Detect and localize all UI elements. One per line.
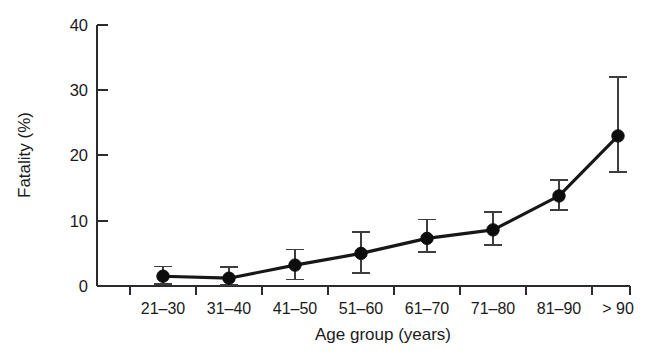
data-point-group <box>352 232 370 273</box>
data-point-group <box>154 266 172 284</box>
y-axis-title: Fatality (%) <box>15 112 34 198</box>
y-axis-ticks <box>97 25 108 286</box>
x-tick-label-0: 21–30 <box>141 300 186 317</box>
x-tick-label-7: > 90 <box>602 300 634 317</box>
y-tick-label-0: 0 <box>79 277 88 295</box>
data-point-marker <box>553 190 565 202</box>
data-point-group <box>286 249 304 279</box>
x-tick-label-5: 71–80 <box>471 300 516 317</box>
data-point-group <box>609 77 627 172</box>
data-point-marker <box>157 270 169 282</box>
y-tick-label-10: 10 <box>70 212 88 230</box>
data-point-marker <box>421 232 433 244</box>
x-axis-title: Age group (years) <box>315 325 451 344</box>
x-tick-label-6: 81–90 <box>537 300 582 317</box>
data-point-group <box>550 180 568 210</box>
y-tick-label-30: 30 <box>70 81 88 99</box>
data-point-group <box>418 219 436 252</box>
chart-canvas: 40 30 20 10 0 21–30 31–40 41–50 51–60 61… <box>0 0 662 363</box>
y-tick-label-40: 40 <box>70 16 88 34</box>
y-tick-label-20: 20 <box>70 146 88 164</box>
x-tick-label-2: 41–50 <box>273 300 318 317</box>
series-line <box>163 136 618 278</box>
x-tick-label-4: 61–70 <box>405 300 450 317</box>
data-point-marker <box>223 272 235 284</box>
data-point-marker <box>355 247 367 259</box>
data-point-marker <box>487 224 499 236</box>
data-point-marker <box>289 259 301 271</box>
x-axis-ticks <box>130 286 630 295</box>
chart-figure: 40 30 20 10 0 21–30 31–40 41–50 51–60 61… <box>0 0 662 363</box>
x-tick-label-3: 51–60 <box>339 300 384 317</box>
x-tick-label-1: 31–40 <box>207 300 252 317</box>
data-point-marker <box>612 130 624 142</box>
data-point-group <box>484 212 502 245</box>
data-series-layer <box>154 77 627 284</box>
